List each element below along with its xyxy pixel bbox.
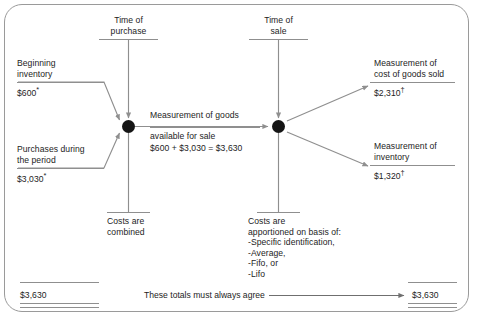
node-costs-combined <box>122 120 135 133</box>
cost-of-goods-sold-amount: $2,310† <box>374 88 405 99</box>
apportion-method-1: -Average, <box>248 248 341 259</box>
ending-inventory-label: Measurement of inventory <box>374 141 437 162</box>
costs-apportioned-rule <box>257 212 300 213</box>
costs-apportioned-line2: apportioned on basis of: <box>248 227 341 238</box>
beginning-inventory-label: Beginning inventory <box>17 58 56 79</box>
purchases-amount: $3,030* <box>17 174 47 185</box>
purchases-line1: Purchases during <box>17 144 85 155</box>
ending-inventory-line2: inventory <box>374 152 437 163</box>
diagram-canvas: Time of purchase Time of sale Beginning … <box>0 0 477 327</box>
apportion-method-2: -Fifo, or <box>248 258 341 269</box>
time-of-purchase-underline <box>99 39 158 40</box>
purchases-underline <box>17 168 104 169</box>
total-left-double-rule <box>20 303 99 308</box>
cost-of-goods-sold-label: Measurement of cost of goods sold <box>374 58 444 79</box>
totals-agree-caption: These totals must always agree <box>140 290 269 300</box>
cost-of-goods-sold-underline <box>370 82 455 83</box>
ending-inventory-footnote-marker: † <box>401 168 405 177</box>
costs-combined-note: Costs are combined <box>107 216 145 237</box>
cost-of-goods-sold-line2: cost of goods sold <box>374 69 444 80</box>
time-of-purchase-line1: Time of <box>96 15 161 26</box>
ending-inventory-line1: Measurement of <box>374 141 437 152</box>
costs-apportioned-line1: Costs are <box>248 216 341 227</box>
ending-inventory-underline <box>370 165 455 166</box>
goods-available-line1: Measurement of goods <box>150 110 239 121</box>
total-left-rule-top <box>20 282 99 283</box>
total-right-rule-top <box>408 282 457 283</box>
time-of-sale-label: Time of sale <box>246 15 311 36</box>
apportion-method-0: -Specific identification, <box>248 237 341 248</box>
total-right-value: $3,630 <box>412 290 439 301</box>
costs-combined-rule <box>107 212 150 213</box>
cost-of-goods-sold-line1: Measurement of <box>374 58 444 69</box>
purchases-value: $3,030 <box>17 174 44 184</box>
goods-available-line2: available for sale <box>150 131 215 142</box>
beginning-inventory-amount: $600* <box>17 88 39 99</box>
ending-inventory-amount: $1,320† <box>374 171 405 182</box>
ending-inventory-value: $1,320 <box>374 171 401 181</box>
time-of-sale-underline <box>249 39 308 40</box>
purchases-label: Purchases during the period <box>17 144 85 165</box>
costs-combined-line1: Costs are <box>107 216 145 227</box>
time-of-purchase-label: Time of purchase <box>96 15 161 36</box>
purchases-footnote-marker: * <box>44 171 47 180</box>
beginning-inventory-value: $600 <box>17 88 36 98</box>
goods-available-equation: $600 + $3,030 = $3,630 <box>150 143 242 154</box>
goods-available-underline <box>150 127 260 128</box>
beginning-inventory-underline <box>17 82 104 83</box>
costs-combined-line2: combined <box>107 227 145 238</box>
total-left-value: $3,630 <box>20 290 47 301</box>
cost-of-goods-sold-value: $2,310 <box>374 88 401 98</box>
time-of-sale-line2: sale <box>246 26 311 37</box>
cost-of-goods-sold-footnote-marker: † <box>401 85 405 94</box>
total-right-double-rule <box>408 303 457 308</box>
apportion-method-3: -Lifo <box>248 269 341 280</box>
node-costs-apportioned <box>272 120 285 133</box>
beginning-inventory-footnote-marker: * <box>36 85 39 94</box>
beginning-inventory-line1: Beginning <box>17 58 56 69</box>
purchases-line2: the period <box>17 155 85 166</box>
time-of-purchase-line2: purchase <box>96 26 161 37</box>
beginning-inventory-line2: inventory <box>17 69 56 80</box>
time-of-sale-line1: Time of <box>246 15 311 26</box>
costs-apportioned-note: Costs are apportioned on basis of: -Spec… <box>248 216 341 280</box>
